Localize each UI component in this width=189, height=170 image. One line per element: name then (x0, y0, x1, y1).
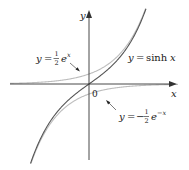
label-exp: x (67, 51, 71, 59)
label-equals: = (127, 111, 135, 122)
x-axis-arrow-icon (169, 81, 177, 87)
label-var-y: y (127, 52, 134, 63)
sinh-diagram: x y 0 y = 1 2 e x y = sinh x y = − 1 2 e… (0, 0, 189, 170)
y-axis-arrow-icon (86, 10, 92, 18)
curve-half-exp (10, 9, 146, 84)
y-axis-label: y (79, 10, 86, 21)
label-half-exp: y = 1 2 e x (35, 50, 71, 67)
origin-label: 0 (92, 89, 98, 99)
x-axis-label: x (171, 88, 177, 99)
frac-den: 2 (55, 59, 59, 67)
label-var-y: y (35, 53, 42, 64)
frac-num: 1 (145, 108, 149, 116)
label-exp: −x (157, 109, 166, 117)
frac-den: 2 (145, 117, 149, 125)
label-sinh-fn: sinh (146, 52, 168, 63)
label-var-y: y (118, 111, 125, 122)
label-equals: = (136, 52, 144, 63)
label-var-x: x (170, 52, 176, 63)
frac-num: 1 (55, 50, 59, 58)
label-minus: − (136, 111, 144, 122)
label-sinh: y = sinh x (127, 52, 176, 63)
label-neg-half-exp-neg: y = − 1 2 e −x (118, 108, 166, 125)
curve-neg-half-exp-neg (31, 84, 178, 163)
pointer-arrow-icon (76, 67, 81, 71)
label-equals: = (44, 53, 52, 64)
